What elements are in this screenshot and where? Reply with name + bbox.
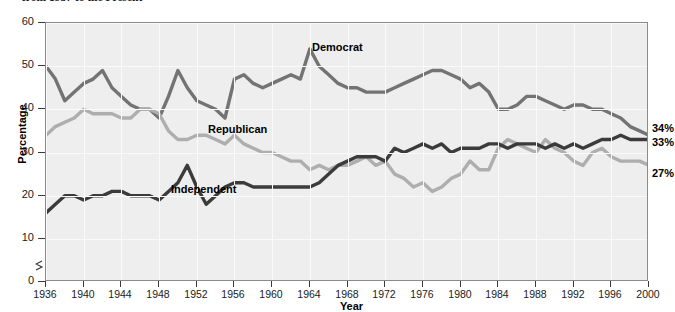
axis-break-icon xyxy=(35,258,47,274)
gridlines xyxy=(46,23,647,280)
y-tick xyxy=(38,65,45,66)
y-tick xyxy=(38,108,45,109)
y-tick xyxy=(38,281,45,282)
x-axis-title-text: Year xyxy=(340,300,363,312)
x-tick xyxy=(648,281,649,287)
vertical-gridline xyxy=(348,23,349,280)
x-tick xyxy=(45,281,46,287)
vertical-gridline xyxy=(461,23,462,280)
x-tick xyxy=(83,281,84,287)
x-tick xyxy=(573,281,574,287)
x-tick xyxy=(422,281,423,287)
horizontal-gridline xyxy=(46,239,647,240)
x-tick-label: 1972 xyxy=(364,288,404,300)
series-label-independent: Independent xyxy=(171,183,236,195)
x-axis-title: Year xyxy=(0,300,675,312)
horizontal-gridline xyxy=(46,109,647,110)
x-tick xyxy=(309,281,310,287)
x-tick-label: 1960 xyxy=(251,288,291,300)
series-label-republican: Republican xyxy=(208,123,267,135)
x-tick-label: 1996 xyxy=(590,288,630,300)
plot-area xyxy=(45,22,648,281)
series-label-democrat: Democrat xyxy=(312,41,363,53)
vertical-gridline xyxy=(385,23,386,280)
y-tick xyxy=(38,22,45,23)
vertical-gridline xyxy=(536,23,537,280)
x-tick-label: 1936 xyxy=(25,288,65,300)
horizontal-gridline xyxy=(46,196,647,197)
x-tick-label: 1988 xyxy=(515,288,555,300)
x-tick xyxy=(120,281,121,287)
x-tick-label: 1956 xyxy=(213,288,253,300)
vertical-gridline xyxy=(423,23,424,280)
end-label-democrat: 34% xyxy=(652,122,674,134)
vertical-gridline xyxy=(272,23,273,280)
y-tick-label: 60 xyxy=(0,15,34,27)
y-tick xyxy=(38,152,45,153)
vertical-gridline xyxy=(159,23,160,280)
x-tick-label: 1976 xyxy=(402,288,442,300)
vertical-gridline xyxy=(197,23,198,280)
vertical-gridline xyxy=(310,23,311,280)
x-tick xyxy=(535,281,536,287)
y-tick-label: 10 xyxy=(0,231,34,243)
x-tick xyxy=(347,281,348,287)
x-tick-label: 1948 xyxy=(138,288,178,300)
x-tick xyxy=(497,281,498,287)
horizontal-gridline xyxy=(46,66,647,67)
vertical-gridline xyxy=(574,23,575,280)
horizontal-gridline xyxy=(46,23,647,24)
x-tick-label: 2000 xyxy=(628,288,668,300)
chart-page: from 1937 to the Present 0102030405060 P… xyxy=(0,0,675,312)
y-tick xyxy=(38,238,45,239)
x-tick xyxy=(460,281,461,287)
x-tick-label: 1980 xyxy=(440,288,480,300)
y-tick-label: 50 xyxy=(0,58,34,70)
vertical-gridline xyxy=(234,23,235,280)
x-tick-label: 1952 xyxy=(176,288,216,300)
vertical-gridline xyxy=(121,23,122,280)
x-tick xyxy=(271,281,272,287)
y-tick xyxy=(38,195,45,196)
horizontal-gridline xyxy=(46,153,647,154)
y-tick-label: 0 xyxy=(0,274,34,286)
x-tick xyxy=(384,281,385,287)
x-tick xyxy=(610,281,611,287)
y-tick-label: 20 xyxy=(0,188,34,200)
vertical-gridline xyxy=(84,23,85,280)
end-label-independent: 33% xyxy=(652,136,674,148)
x-tick-label: 1984 xyxy=(477,288,517,300)
chart-title: from 1937 to the Present xyxy=(22,0,322,3)
y-axis-title: Percentage xyxy=(16,94,28,174)
x-tick xyxy=(196,281,197,287)
x-tick xyxy=(158,281,159,287)
vertical-gridline xyxy=(498,23,499,280)
vertical-gridline xyxy=(46,23,47,280)
x-tick-label: 1944 xyxy=(100,288,140,300)
x-tick-label: 1992 xyxy=(553,288,593,300)
vertical-gridline xyxy=(611,23,612,280)
end-label-republican: 27% xyxy=(652,167,674,179)
x-tick-label: 1964 xyxy=(289,288,329,300)
x-tick xyxy=(233,281,234,287)
x-tick-label: 1968 xyxy=(327,288,367,300)
x-tick-label: 1940 xyxy=(63,288,103,300)
